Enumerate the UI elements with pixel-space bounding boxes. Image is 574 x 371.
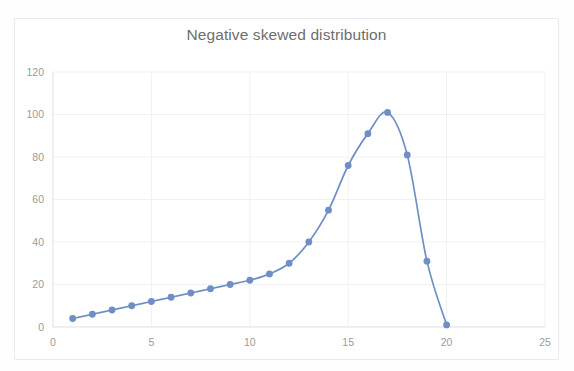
x-axis-tick-labels: 0510152025: [50, 336, 551, 348]
data-point-marker: [89, 311, 96, 318]
y-axis-tick-labels: 020406080100120: [26, 66, 44, 333]
x-axis-tick-label: 10: [244, 336, 256, 348]
data-point-marker: [364, 130, 371, 137]
y-axis-tick-label: 120: [26, 66, 44, 78]
data-point-marker: [424, 258, 431, 265]
data-point-marker: [69, 315, 76, 322]
chart-plot-area: 020406080100120 0510152025: [0, 0, 574, 371]
data-point-marker: [286, 260, 293, 267]
series-marker-group: [69, 109, 450, 328]
x-axis-tick-label: 0: [50, 336, 56, 348]
y-axis-tick-label: 40: [32, 236, 44, 248]
data-point-marker: [109, 307, 116, 314]
series-line-group: [73, 112, 447, 325]
x-axis-tick-label: 20: [441, 336, 453, 348]
y-axis-tick-label: 20: [32, 278, 44, 290]
data-point-marker: [443, 321, 450, 328]
data-point-marker: [384, 109, 391, 116]
data-point-marker: [187, 290, 194, 297]
y-axis-tick-label: 100: [26, 108, 44, 120]
x-axis-tick-label: 5: [148, 336, 154, 348]
data-point-marker: [404, 151, 411, 158]
y-axis-tick-label: 60: [32, 193, 44, 205]
series-line: [73, 112, 447, 325]
data-point-marker: [227, 281, 234, 288]
data-point-marker: [345, 162, 352, 169]
data-point-marker: [128, 302, 135, 309]
data-point-marker: [246, 277, 253, 284]
y-axis-tick-label: 0: [38, 321, 44, 333]
chart-container: Negative skewed distribution 02040608010…: [0, 0, 574, 371]
y-axis-tick-label: 80: [32, 151, 44, 163]
data-point-marker: [168, 294, 175, 301]
y-gridlines-group: [53, 72, 545, 327]
data-point-marker: [305, 239, 312, 246]
x-axis-tick-label: 25: [539, 336, 551, 348]
data-point-marker: [325, 207, 332, 214]
data-point-marker: [148, 298, 155, 305]
data-point-marker: [266, 270, 273, 277]
x-axis-tick-label: 15: [342, 336, 354, 348]
data-point-marker: [207, 285, 214, 292]
